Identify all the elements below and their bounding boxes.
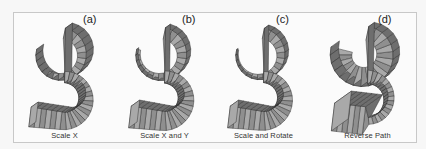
panel-tag-d: (d): [378, 14, 391, 25]
panel-tag-c: (c): [276, 14, 289, 25]
panel-c: (c) Scale and Rotate: [213, 13, 314, 144]
panel-tag-b: (b): [182, 14, 195, 25]
panel-caption-c: Scale and Rotate: [213, 131, 314, 140]
panel-d: (d) Reverse Path: [317, 13, 418, 144]
s-sweep-solid-b: [114, 13, 215, 144]
s-sweep-solid-c: [213, 13, 314, 144]
panel-a: (a) Scale X: [14, 13, 115, 144]
panel-b: (b) Scale X and Y: [114, 13, 215, 144]
panel-caption-b: Scale X and Y: [114, 131, 215, 140]
panel-caption-a: Scale X: [14, 131, 115, 140]
panel-tag-a: (a): [83, 14, 96, 25]
s-sweep-solid-a: [14, 13, 115, 144]
s-sweep-solid-d: [317, 13, 418, 144]
figure-frame: (a) Scale X (b) Scale X and Y (c) Scale …: [13, 12, 417, 143]
panel-caption-d: Reverse Path: [317, 131, 418, 140]
